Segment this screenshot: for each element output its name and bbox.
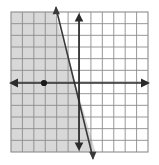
boundary-line-arrow-up <box>53 6 60 14</box>
plotted-point <box>41 80 47 86</box>
boundary-line-arrow-down <box>89 152 96 160</box>
graph-figure <box>0 0 159 165</box>
coordinate-plane <box>0 0 159 165</box>
